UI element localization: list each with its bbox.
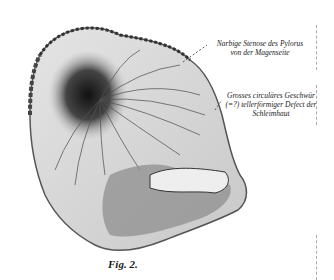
figure-caption: Fig. 2. bbox=[108, 258, 138, 270]
pointer-line-1 bbox=[183, 45, 207, 62]
scan-edge-line bbox=[316, 235, 317, 280]
scan-edge-line bbox=[316, 25, 317, 70]
annotation-pylorus-stenosis: Narbige Stenose des Pylorus von der Mage… bbox=[205, 39, 315, 57]
annotation-line: Grosses circuläres Geschwür bbox=[222, 91, 320, 100]
annotation-line: Narbige Stenose des Pylorus bbox=[205, 39, 315, 48]
annotation-ulcer: Grosses circuläres Geschwür (=?) tellerf… bbox=[222, 91, 320, 118]
annotation-line: (=?) tellerförmiger Defect der bbox=[222, 100, 320, 109]
scan-edge-line bbox=[316, 85, 317, 125]
annotation-line: Schleimhaut bbox=[222, 109, 320, 118]
annotation-line: von der Magenseite bbox=[205, 48, 315, 57]
